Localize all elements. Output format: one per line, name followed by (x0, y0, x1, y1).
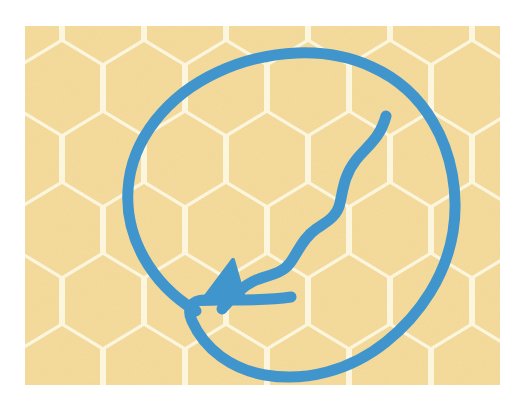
illustration-canvas: Wavy arrow looping inside a circle over … (0, 0, 526, 408)
illustration-root: Wavy arrow looping inside a circle over … (0, 0, 526, 408)
honeycomb-grain-overlay (25, 26, 500, 385)
